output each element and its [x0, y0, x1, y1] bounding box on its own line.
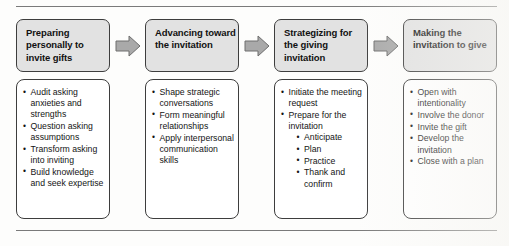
stage-bullet-list-1: Audit asking anxieties and strengths Que… — [23, 87, 105, 189]
flow-arrow-3 — [368, 19, 403, 72]
list-item: Transform asking into inviting — [23, 144, 105, 166]
right-arrow-icon — [115, 35, 141, 57]
bottom-divider-rule — [16, 230, 497, 231]
list-item: Open with intentionality — [410, 87, 492, 109]
diagram-canvas: Preparing personally to invite gifts Aud… — [0, 0, 509, 246]
right-arrow-icon — [244, 35, 270, 57]
process-flow: Preparing personally to invite gifts Aud… — [16, 19, 497, 219]
list-item: Question asking assumptions — [23, 121, 105, 143]
stage-column-1: Preparing personally to invite gifts Aud… — [16, 19, 110, 219]
stage-body-4: Open with intentionality Involve the don… — [403, 79, 497, 219]
list-item-label: Prepare for the invitation — [289, 110, 347, 131]
stage-bullet-list-4: Open with intentionality Involve the don… — [410, 87, 492, 167]
stage-body-1: Audit asking anxieties and strengths Que… — [16, 79, 110, 219]
list-item: Anticipate — [297, 132, 364, 143]
top-divider-rule — [16, 6, 497, 7]
stage-body-2: Shape strategic conversations Form meani… — [145, 79, 239, 219]
stage-header-4[interactable]: Making the invitation to give — [403, 19, 497, 72]
list-item: Develop the invitation — [410, 133, 492, 155]
list-item: Build knowledge and seek expertise — [23, 167, 105, 189]
right-arrow-icon — [373, 35, 399, 57]
list-item: Prepare for the invitation Anticipate Pl… — [281, 110, 363, 190]
stage-column-2: Advancing toward the invitation Shape st… — [145, 19, 239, 219]
flow-arrow-2 — [239, 19, 274, 72]
list-item: Initiate the meeting request — [281, 87, 363, 109]
list-item: Practice — [297, 156, 364, 167]
list-item: Close with a plan — [410, 156, 492, 167]
list-item: Shape strategic conversations — [152, 87, 234, 109]
stage-body-3: Initiate the meeting request Prepare for… — [274, 79, 368, 219]
list-item: Involve the donor — [410, 110, 492, 121]
list-item: Thank and confirm — [297, 167, 364, 189]
stage-header-1[interactable]: Preparing personally to invite gifts — [16, 19, 110, 72]
stage-header-3[interactable]: Strategizing for the giving invitation — [274, 19, 368, 72]
stage-sub-bullet-list-3: Anticipate Plan Practice Thank and confi… — [289, 132, 364, 190]
stage-bullet-list-3: Initiate the meeting request Prepare for… — [281, 87, 363, 190]
stage-column-3: Strategizing for the giving invitation I… — [274, 19, 368, 219]
flow-arrow-1 — [110, 19, 145, 72]
stage-column-4: Making the invitation to give Open with … — [403, 19, 497, 219]
list-item: Invite the gift — [410, 122, 492, 133]
list-item: Audit asking anxieties and strengths — [23, 87, 105, 121]
list-item: Form meaningful relationships — [152, 110, 234, 132]
list-item: Apply interpersonal communication skills — [152, 133, 234, 167]
stage-header-2[interactable]: Advancing toward the invitation — [145, 19, 239, 72]
stage-bullet-list-2: Shape strategic conversations Form meani… — [152, 87, 234, 166]
list-item: Plan — [297, 144, 364, 155]
